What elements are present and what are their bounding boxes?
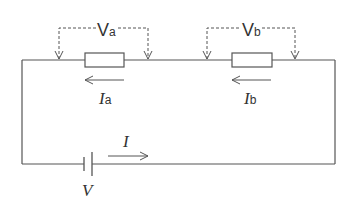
circuit-diagram: Va Vb Ia Ib V I (0, 0, 350, 207)
current-label-b: Ib (243, 89, 257, 108)
battery-cell (84, 152, 92, 176)
voltage-label-a: Va (97, 20, 116, 40)
current-arrow-a (85, 76, 124, 84)
resistor-b (232, 53, 272, 67)
current-arrow-b (232, 76, 271, 84)
main-current-label: I (122, 132, 130, 151)
circuit-svg: Va Vb Ia Ib V I (0, 0, 350, 207)
circuit-wires (22, 60, 335, 164)
current-label-a: Ia (98, 89, 112, 108)
main-current-arrow (108, 152, 148, 160)
voltage-label-b: Vb (242, 20, 261, 40)
battery-voltage-label: V (82, 181, 95, 200)
resistor-a (85, 53, 124, 67)
